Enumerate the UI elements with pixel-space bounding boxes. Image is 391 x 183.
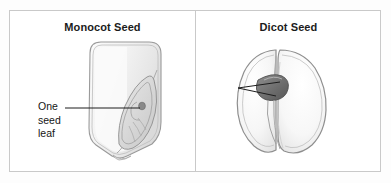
monocot-plumule — [139, 102, 146, 110]
monocot-seed-illustration — [9, 10, 196, 172]
dicot-cotyledon-right — [278, 50, 326, 153]
dicot-seed-illustration — [196, 10, 381, 172]
dicot-cotyledon-left — [237, 50, 276, 152]
dicot-embryo — [256, 75, 288, 101]
panel-dicot: Dicot Seed — [196, 10, 381, 172]
panel-monocot: Monocot Seed — [9, 10, 196, 172]
seed-comparison-figure: Monocot Seed — [0, 0, 391, 183]
callout-one-seed-leaf: One seed leaf — [38, 100, 61, 141]
